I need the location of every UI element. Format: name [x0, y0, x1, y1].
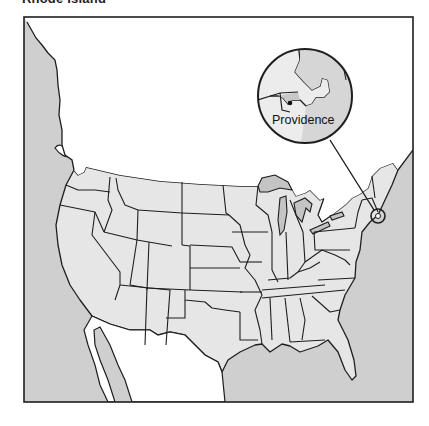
us-map: Providence	[0, 0, 429, 426]
providence-dot	[288, 101, 293, 106]
inset-city-label: Providence	[272, 113, 335, 127]
